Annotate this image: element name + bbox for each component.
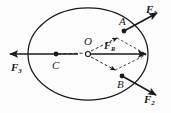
vector-label-f1-subscript: 1 xyxy=(153,9,156,16)
point-label-c: C xyxy=(52,60,59,71)
vector-label-f3-subscript: 3 xyxy=(18,67,21,74)
vector-label-f2-subscript: 2 xyxy=(151,99,154,106)
vector-label-fr-base: F xyxy=(104,40,111,51)
dashed-parallelogram-upper-side xyxy=(117,38,146,54)
dashed-parallelogram-lower-side xyxy=(115,55,146,70)
vector-label-f3: F3 xyxy=(11,62,22,75)
point-label-b: B xyxy=(117,79,124,90)
vector-label-f1: F1 xyxy=(146,4,157,17)
dashed-component-lower xyxy=(91,57,115,70)
vector-label-fr: FR xyxy=(104,41,115,53)
point-marker-a xyxy=(122,29,127,34)
point-label-o: O xyxy=(84,36,92,47)
point-marker-c xyxy=(54,52,59,57)
vector-label-f2: F2 xyxy=(144,94,155,107)
force-diagram-figure: O C A B F1 F2 F3 FR xyxy=(0,0,171,113)
point-marker-o xyxy=(86,52,91,57)
vector-label-fr-subscript: R xyxy=(111,45,115,52)
point-label-a: A xyxy=(119,16,126,27)
